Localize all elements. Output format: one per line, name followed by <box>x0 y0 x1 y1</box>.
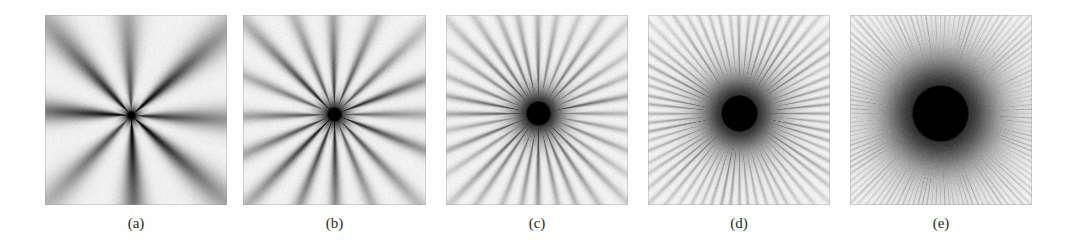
panel-label-b: (b) <box>243 214 426 232</box>
panel-label-e: (e) <box>850 214 1032 232</box>
spectrum-canvas-b <box>243 15 426 205</box>
spectrum-canvas-e <box>850 15 1032 205</box>
panel-group-d: (d) <box>648 15 830 245</box>
spectrum-image-c <box>446 15 628 205</box>
spectrum-canvas-a <box>45 15 227 205</box>
panel-group-c: (c) <box>446 15 628 245</box>
panel-label-d: (d) <box>648 214 830 232</box>
spectrum-image-d <box>648 15 830 205</box>
panel-label-c: (c) <box>446 214 628 232</box>
panel-group-e: (e) <box>850 15 1032 245</box>
panel-label-a: (a) <box>45 214 227 232</box>
spectrum-image-a <box>45 15 227 205</box>
spectrum-image-e <box>850 15 1032 205</box>
spectrum-canvas-d <box>648 15 830 205</box>
figure-panel-grid: (a) (b) (c) (d) (e) <box>0 0 1071 249</box>
spectrum-image-b <box>243 15 426 205</box>
spectrum-canvas-c <box>446 15 628 205</box>
panel-group-b: (b) <box>243 15 426 245</box>
panel-group-a: (a) <box>45 15 227 245</box>
